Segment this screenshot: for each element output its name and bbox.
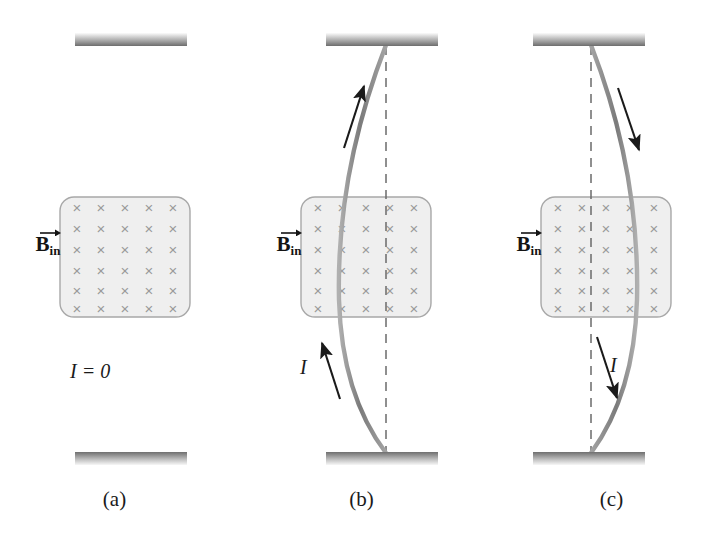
svg-text:×: × xyxy=(169,282,178,299)
bottom-support-bar-a xyxy=(75,452,187,465)
svg-text:×: × xyxy=(626,282,635,299)
svg-text:×: × xyxy=(602,262,611,279)
svg-text:×: × xyxy=(362,262,371,279)
magnetic-field-label-b: Bin xyxy=(259,228,319,257)
field-subscript: in xyxy=(531,243,542,258)
svg-text:×: × xyxy=(578,241,587,258)
svg-text:×: × xyxy=(386,282,395,299)
magnetic-field-label-c: Bin xyxy=(499,228,559,257)
svg-text:×: × xyxy=(554,199,563,216)
svg-text:×: × xyxy=(650,282,659,299)
svg-text:×: × xyxy=(554,262,563,279)
svg-text:×: × xyxy=(145,220,154,237)
svg-text:×: × xyxy=(362,282,371,299)
svg-text:×: × xyxy=(97,282,106,299)
svg-text:×: × xyxy=(650,300,659,317)
panel-caption-a: (a) xyxy=(0,487,235,512)
lower-current-arrow-b xyxy=(322,343,340,399)
svg-text:×: × xyxy=(73,199,82,216)
svg-text:×: × xyxy=(602,300,611,317)
svg-text:×: × xyxy=(578,220,587,237)
panel-b-graphic: ××××× ××××× ××××× ××××× ××××× ××××× xyxy=(241,0,482,539)
svg-text:×: × xyxy=(169,241,178,258)
svg-text:×: × xyxy=(650,241,659,258)
svg-text:×: × xyxy=(626,241,635,258)
svg-text:×: × xyxy=(626,262,635,279)
panel-b: ××××× ××××× ××××× ××××× ××××× ××××× xyxy=(241,0,482,539)
svg-text:×: × xyxy=(362,220,371,237)
svg-text:×: × xyxy=(362,300,371,317)
svg-text:×: × xyxy=(145,199,154,216)
svg-text:×: × xyxy=(314,262,323,279)
svg-text:×: × xyxy=(73,282,82,299)
svg-text:×: × xyxy=(145,241,154,258)
svg-text:×: × xyxy=(386,199,395,216)
svg-text:×: × xyxy=(362,199,371,216)
svg-text:×: × xyxy=(73,262,82,279)
svg-text:×: × xyxy=(97,300,106,317)
svg-text:×: × xyxy=(145,282,154,299)
current-label-a: I = 0 xyxy=(70,360,110,383)
vector-arrow-icon xyxy=(280,228,300,235)
svg-text:×: × xyxy=(410,220,419,237)
panel-caption-b: (b) xyxy=(241,487,482,512)
svg-text:×: × xyxy=(410,241,419,258)
svg-text:×: × xyxy=(169,300,178,317)
svg-text:×: × xyxy=(410,300,419,317)
current-label-c: I xyxy=(610,354,617,377)
svg-text:×: × xyxy=(410,199,419,216)
svg-text:×: × xyxy=(554,300,563,317)
svg-text:×: × xyxy=(650,220,659,237)
svg-text:×: × xyxy=(650,262,659,279)
svg-text:×: × xyxy=(602,220,611,237)
svg-text:×: × xyxy=(386,241,395,258)
svg-text:×: × xyxy=(97,199,106,216)
svg-text:×: × xyxy=(97,262,106,279)
panel-a: ××××× ××××× ××××× ××××× ××××× ××××× Bin xyxy=(0,0,241,539)
panel-a-graphic: ××××× ××××× ××××× ××××× ××××× ××××× xyxy=(0,0,241,539)
svg-text:×: × xyxy=(97,241,106,258)
svg-text:×: × xyxy=(650,199,659,216)
top-support-bar-b xyxy=(326,33,438,46)
field-subscript: in xyxy=(50,243,61,258)
bottom-support-bar-c xyxy=(533,452,645,465)
top-support-bar-c xyxy=(533,33,645,46)
svg-text:×: × xyxy=(73,300,82,317)
panel-c: ××××× ××××× ××××× ××××× ××××× ××××× xyxy=(481,0,722,539)
svg-text:×: × xyxy=(97,220,106,237)
svg-text:×: × xyxy=(169,220,178,237)
svg-text:×: × xyxy=(314,282,323,299)
svg-text:×: × xyxy=(386,220,395,237)
bottom-support-bar-b xyxy=(326,452,438,465)
vector-arrow-icon xyxy=(520,228,540,235)
svg-text:×: × xyxy=(410,282,419,299)
figure-root: ××××× ××××× ××××× ××××× ××××× ××××× Bin xyxy=(0,0,722,539)
svg-text:×: × xyxy=(578,282,587,299)
svg-text:×: × xyxy=(554,282,563,299)
svg-text:×: × xyxy=(602,199,611,216)
svg-text:×: × xyxy=(602,241,611,258)
svg-text:×: × xyxy=(386,300,395,317)
current-label-b: I xyxy=(300,356,307,379)
svg-text:×: × xyxy=(145,262,154,279)
svg-text:×: × xyxy=(145,300,154,317)
svg-text:×: × xyxy=(410,262,419,279)
top-support-bar-a xyxy=(75,33,187,46)
vector-arrow-icon xyxy=(39,228,59,235)
field-subscript: in xyxy=(291,243,302,258)
svg-text:×: × xyxy=(169,262,178,279)
svg-text:×: × xyxy=(386,262,395,279)
svg-text:×: × xyxy=(578,300,587,317)
svg-text:×: × xyxy=(578,199,587,216)
svg-text:×: × xyxy=(314,300,323,317)
svg-text:×: × xyxy=(169,199,178,216)
svg-text:×: × xyxy=(314,199,323,216)
magnetic-field-label-a: Bin xyxy=(18,228,78,257)
svg-text:×: × xyxy=(362,241,371,258)
panel-c-graphic: ××××× ××××× ××××× ××××× ××××× ××××× xyxy=(481,0,722,539)
svg-text:×: × xyxy=(602,282,611,299)
svg-text:×: × xyxy=(578,262,587,279)
svg-text:×: × xyxy=(626,300,635,317)
panel-caption-c: (c) xyxy=(491,487,722,512)
